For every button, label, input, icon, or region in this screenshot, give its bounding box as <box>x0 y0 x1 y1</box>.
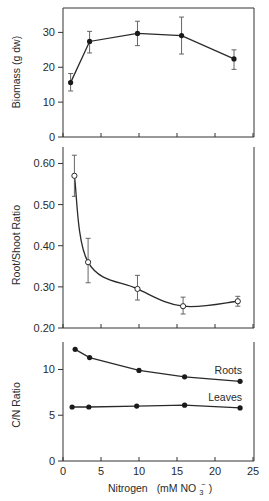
y-tick-label: 0.20 <box>34 322 55 334</box>
series-line-leaves <box>72 405 240 408</box>
data-point <box>136 368 141 373</box>
y-tick-label: 5 <box>49 409 55 421</box>
x-axis-title-unit: (mM NO <box>157 482 197 494</box>
y-axis-title-biomass: Biomass (g dw) <box>10 36 22 108</box>
y-tick-label: 0 <box>49 131 55 143</box>
x-axis-title: Nitrogen (mM NO 3 − ) <box>108 477 212 497</box>
panel-root-shoot: 0.200.300.400.500.60 <box>34 147 254 334</box>
data-point <box>235 299 240 304</box>
y-tick-label: 10 <box>43 96 55 108</box>
x-tick-label: 25 <box>247 465 259 477</box>
y-tick-label: 20 <box>43 61 55 73</box>
data-point <box>134 403 139 408</box>
x-axis-title-main: Nitrogen <box>108 482 148 494</box>
series-line-root-shoot-ratio <box>74 176 237 307</box>
data-point <box>180 304 185 309</box>
data-point <box>87 39 92 44</box>
x-tick-label: 15 <box>171 465 183 477</box>
y-axis-title-cn-ratio: C/N Ratio <box>10 382 22 428</box>
data-point <box>70 404 75 409</box>
y-tick-label: 0 <box>49 455 55 467</box>
figure: 0102030 0.200.300.400.500.60 05101520250… <box>0 0 269 501</box>
series-line-biomass <box>71 33 234 82</box>
data-point <box>85 260 90 265</box>
data-point <box>237 379 242 384</box>
data-point <box>72 173 77 178</box>
y-tick-label: 10 <box>43 363 55 375</box>
data-point <box>182 374 187 379</box>
y-tick-label: 30 <box>43 26 55 38</box>
data-point <box>87 355 92 360</box>
data-point <box>135 286 140 291</box>
x-axis-title-close: ) <box>209 482 213 494</box>
series-label-roots: Roots <box>215 364 242 376</box>
data-point <box>135 31 140 36</box>
data-point <box>86 404 91 409</box>
y-tick-label: 0.50 <box>34 199 55 211</box>
data-point <box>68 80 73 85</box>
y-tick-label: 0.60 <box>34 157 55 169</box>
y-tick-label: 0.40 <box>34 240 55 252</box>
y-axis-title-root-shoot: Root/Shoot Ratio <box>10 205 22 285</box>
x-axis-title-sup: − <box>201 480 206 489</box>
x-tick-label: 0 <box>60 465 66 477</box>
series-label-leaves: Leaves <box>208 391 242 403</box>
panel-cn-ratio: 05101520250510 <box>43 342 259 477</box>
x-axis-title-sub: 3 <box>199 488 203 497</box>
panel-biomass: 0102030 <box>43 8 254 143</box>
chart-svg: 0102030 0.200.300.400.500.60 05101520250… <box>0 0 269 501</box>
data-point <box>237 405 242 410</box>
data-point <box>182 403 187 408</box>
data-point <box>231 56 236 61</box>
x-tick-label: 20 <box>209 465 221 477</box>
x-tick-label: 5 <box>98 465 104 477</box>
data-point <box>179 33 184 38</box>
y-tick-label: 0.30 <box>34 281 55 293</box>
data-point <box>73 347 78 352</box>
x-tick-label: 10 <box>133 465 145 477</box>
